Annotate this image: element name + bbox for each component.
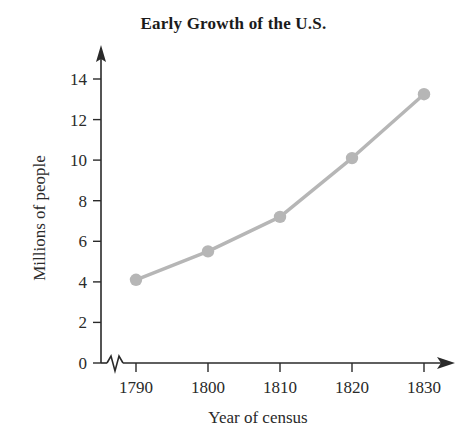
y-tick-label: 12 [70,111,87,130]
data-point-markers [130,88,430,286]
y-tick-label: 10 [70,151,87,170]
y-tick-label: 8 [79,192,88,211]
y-tick-label: 0 [79,354,88,373]
x-axis-title: Year of census [208,408,307,427]
y-tick-label: 4 [79,273,88,292]
x-tick-label: 1800 [191,378,225,397]
y-tick-label: 14 [70,70,88,89]
x-axis-break-zigzag-icon [107,356,123,371]
x-tick-label: 1820 [335,378,369,397]
x-axis [101,356,455,371]
x-axis-tick-labels: 1790 1800 1810 1820 1830 [119,378,441,397]
y-tick-label: 6 [79,232,88,251]
x-tick-label: 1810 [263,378,297,397]
y-axis-ticks [93,79,101,363]
x-tick-label: 1790 [119,378,153,397]
x-axis-ticks [136,363,424,372]
x-tick-label: 1830 [407,378,441,397]
data-line-series [136,94,424,280]
y-axis-tick-labels: 0 2 4 6 8 10 12 14 [70,70,88,373]
data-point[interactable] [274,211,286,223]
data-point[interactable] [418,88,430,100]
line-chart-plot: 0 2 4 6 8 10 12 14 1790 1800 1810 1820 1… [0,0,467,440]
y-axis-title: Millions of people [30,155,49,281]
y-axis [96,45,106,363]
data-point[interactable] [202,245,214,257]
data-point[interactable] [130,274,142,286]
data-point[interactable] [346,152,358,164]
chart-page: Early Growth of the U.S. 0 [0,0,467,440]
y-tick-label: 2 [79,313,88,332]
